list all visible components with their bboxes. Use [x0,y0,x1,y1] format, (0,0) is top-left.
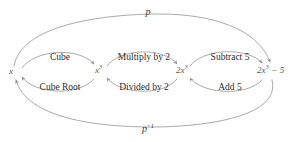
op-label-subtract-5: Subtract 5 [211,53,250,63]
op-label-cube: Cube [50,53,70,63]
op-label-multiply-by-2: Multiply by 2 [118,53,170,63]
function-machine-diagram: x x3 2x3 2x3 − 5 Cube Multiply by 2 Subt… [0,0,302,142]
arc-label-p-inverse: p−1 [142,124,154,134]
arc-label-p: p [146,7,151,17]
node-label-two-x-cubed-minus-5: 2x3 − 5 [257,66,284,75]
op-label-divided-by-2: Divided by 2 [119,83,169,93]
node-label-two-x-cubed: 2x3 [176,66,188,75]
op-label-cube-root: Cube Root [40,83,81,93]
node-label-x-cubed: x3 [95,66,102,75]
node-label-x: x [9,67,13,76]
op-label-add-5: Add 5 [218,83,242,93]
